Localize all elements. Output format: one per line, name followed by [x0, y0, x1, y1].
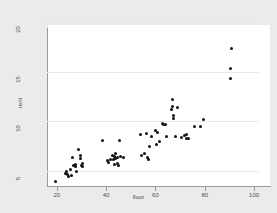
- data-point: [171, 105, 174, 108]
- data-point: [202, 118, 205, 121]
- data-point: [176, 106, 179, 109]
- y-tick-label: 10: [15, 122, 22, 136]
- data-point: [180, 136, 183, 139]
- x-axis-line: [47, 186, 271, 187]
- data-point: [143, 152, 146, 155]
- data-point: [150, 135, 153, 138]
- x-tick-mark: [57, 187, 58, 191]
- data-point: [114, 152, 117, 155]
- data-point: [185, 133, 188, 136]
- y-axis-title: rent: [17, 83, 23, 123]
- y-tick-label: 20: [15, 22, 22, 36]
- x-tick-mark: [205, 187, 206, 191]
- data-point: [101, 139, 104, 142]
- data-point: [147, 158, 150, 161]
- data-point: [75, 170, 78, 173]
- data-point: [165, 135, 168, 138]
- data-point: [116, 156, 119, 159]
- data-point: [69, 168, 72, 171]
- data-point: [70, 174, 73, 177]
- data-point: [193, 125, 196, 128]
- data-point: [155, 143, 158, 146]
- x-tick-mark: [254, 187, 255, 191]
- data-point: [74, 165, 77, 168]
- data-point: [229, 67, 232, 70]
- gridline-horizontal: [37, 22, 259, 23]
- x-tick-mark: [106, 187, 107, 191]
- data-point: [107, 161, 110, 164]
- data-point: [187, 137, 190, 140]
- data-point: [54, 180, 57, 183]
- data-point: [158, 140, 161, 143]
- data-point: [77, 148, 80, 151]
- data-point: [148, 145, 151, 148]
- data-point: [172, 117, 175, 120]
- data-point: [79, 157, 82, 160]
- data-point: [81, 165, 84, 168]
- x-tick-mark: [155, 187, 156, 191]
- data-point: [170, 108, 173, 111]
- scatter-plot-screenshot: 5101520 20406080100 rent floor: [0, 0, 277, 213]
- data-point: [230, 47, 233, 50]
- data-point: [118, 139, 121, 142]
- data-point: [164, 123, 167, 126]
- data-point: [172, 114, 175, 117]
- x-axis-title: floor: [0, 194, 277, 200]
- plot-data-area: [48, 25, 270, 186]
- data-point: [199, 125, 202, 128]
- data-point: [122, 156, 125, 159]
- data-point: [174, 135, 177, 138]
- data-point: [229, 77, 232, 80]
- data-point: [71, 156, 74, 159]
- data-point: [117, 164, 120, 167]
- data-point: [171, 98, 174, 101]
- data-point: [156, 131, 159, 134]
- data-point: [145, 132, 148, 135]
- data-point: [139, 133, 142, 136]
- graph-region: 5101520 20406080100 rent: [11, 7, 266, 203]
- data-point: [81, 162, 84, 165]
- y-tick-label: 5: [15, 172, 22, 186]
